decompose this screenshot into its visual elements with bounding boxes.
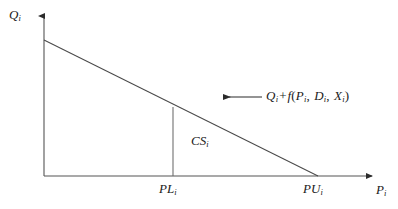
demand-function-annotation: Qi+f(Pi, Di, Xi)	[266, 89, 349, 102]
tick-label-upper-price: PUi	[303, 182, 323, 195]
demand-function-arg-price: P	[296, 88, 304, 103]
tick-label-lower-price-subscript: i	[174, 187, 177, 197]
y-axis-label-text: Q	[9, 7, 18, 22]
demand-function-arg-covariates-subscript: i	[342, 94, 345, 104]
demand-function-arg-demand-subscript: i	[324, 94, 327, 104]
y-axis-label: Qi	[9, 8, 21, 21]
demand-function-arg-covariates: X	[334, 88, 342, 103]
tick-label-upper-price-subscript: i	[320, 187, 323, 197]
x-axis-label-text: P	[376, 182, 384, 197]
x-axis-label: Pi	[376, 183, 387, 196]
demand-function-separator-1: ,	[306, 88, 310, 103]
consumer-surplus-label: CSi	[191, 134, 209, 147]
demand-function-lead-subscript: i	[276, 94, 279, 104]
demand-function-separator-2: ,	[326, 88, 330, 103]
x-axis-label-subscript: i	[384, 188, 387, 198]
demand-function-operator: +	[278, 88, 287, 103]
demand-function-close-paren: )	[345, 88, 349, 103]
demand-curve-figure: Qi Pi PLi PUi CSi Qi+f(Pi, Di, Xi)	[0, 0, 398, 209]
tick-label-lower-price: PLi	[159, 182, 177, 195]
y-axis-label-subscript: i	[18, 13, 21, 23]
tick-label-lower-price-text: PL	[159, 181, 174, 196]
consumer-surplus-label-subscript: i	[206, 139, 209, 149]
demand-function-lead: Q	[266, 88, 276, 103]
demand-function-arg-demand: D	[314, 88, 324, 103]
consumer-surplus-label-text: CS	[191, 133, 206, 148]
demand-curve	[44, 40, 318, 176]
figure-canvas	[0, 0, 398, 209]
tick-label-upper-price-text: PU	[303, 181, 320, 196]
